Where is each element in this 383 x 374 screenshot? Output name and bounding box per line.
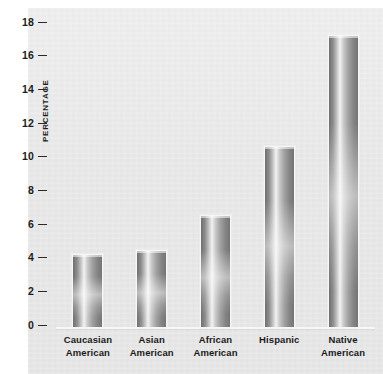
- bar[interactable]: [201, 216, 230, 327]
- bar-top-edge: [137, 251, 166, 253]
- bar-top-edge: [73, 255, 102, 257]
- bar-top-edge: [329, 36, 358, 38]
- x-axis-category-label-line: American: [120, 347, 184, 360]
- x-axis-category-label-line: Caucasian: [56, 334, 120, 347]
- bar-slot: [73, 8, 102, 327]
- x-axis-category-label: AsianAmerican: [120, 334, 184, 359]
- x-axis-category-label: NativeAmerican: [311, 334, 375, 359]
- x-axis-category-label-line: Asian: [120, 334, 184, 347]
- x-axis-category-label: CaucasianAmerican: [56, 334, 120, 359]
- x-axis-baseline: [56, 327, 375, 329]
- bar-chart-figure: 024681012141618 PERCENTAGE CaucasianAmer…: [0, 0, 383, 374]
- bar-slot: [201, 8, 230, 327]
- bar[interactable]: [137, 251, 166, 327]
- x-axis-labels: CaucasianAmericanAsianAmericanAfricanAme…: [56, 334, 375, 368]
- bar-top-edge: [201, 216, 230, 218]
- x-axis-category-label-line: Hispanic: [247, 334, 311, 347]
- x-axis-category-label: Hispanic: [247, 334, 311, 347]
- bar-top-edge: [265, 147, 294, 149]
- bar[interactable]: [265, 147, 294, 327]
- x-axis-category-label-line: American: [56, 347, 120, 360]
- x-axis-category-label-line: African: [184, 334, 248, 347]
- y-axis-title: PERCENTAGE: [41, 80, 50, 142]
- bar-slot: [137, 8, 166, 327]
- bar[interactable]: [73, 255, 102, 327]
- x-axis-category-label-line: American: [311, 347, 375, 360]
- x-axis-category-label-line: American: [184, 347, 248, 360]
- plot-area: [56, 8, 375, 327]
- x-axis-category-label: AfricanAmerican: [184, 334, 248, 359]
- x-axis-category-label-line: Native: [311, 334, 375, 347]
- bar[interactable]: [329, 36, 358, 327]
- bar-slot: [329, 8, 358, 327]
- bar-slot: [265, 8, 294, 327]
